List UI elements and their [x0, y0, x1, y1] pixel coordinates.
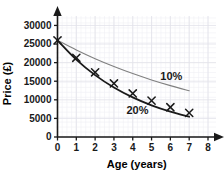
- y-tick-label: 5000: [29, 113, 52, 124]
- x-tick-label: 1: [74, 142, 80, 153]
- x-tick-label: 2: [92, 142, 98, 153]
- y-tick-label: 15000: [24, 76, 52, 87]
- x-tick-label: 6: [168, 142, 174, 153]
- curve-label-20: 20%: [126, 104, 148, 116]
- x-tick-label: 5: [149, 142, 155, 153]
- y-tick-label: 0: [46, 131, 52, 142]
- x-tick-label: 8: [205, 142, 211, 153]
- y-axis-title: Price (£): [1, 61, 13, 105]
- chart-container: 050001000015000200002500030000 012345678…: [0, 0, 224, 177]
- price-depreciation-chart: 050001000015000200002500030000 012345678…: [0, 0, 224, 177]
- x-tick-label: 0: [55, 142, 61, 153]
- y-tick-label: 30000: [24, 20, 52, 31]
- x-tick-label: 3: [111, 142, 117, 153]
- x-axis-tick-labels: 012345678: [55, 142, 212, 153]
- x-tick-label: 4: [130, 142, 136, 153]
- y-tick-label: 10000: [24, 94, 52, 105]
- y-tick-label: 20000: [24, 57, 52, 68]
- y-tick-label: 25000: [24, 38, 52, 49]
- curve-label-10: 10%: [160, 70, 182, 82]
- x-axis-title: Age (years): [107, 158, 167, 170]
- x-tick-label: 7: [186, 142, 192, 153]
